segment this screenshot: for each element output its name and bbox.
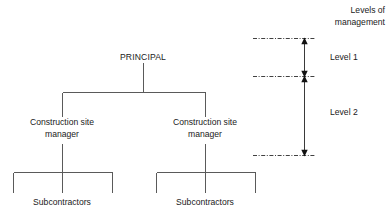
node-label-subcontractors-right: Subcontractors <box>176 197 234 207</box>
node-label-subcontractors-left: Subcontractors <box>33 197 91 207</box>
legend-label-level-1: Level 1 <box>330 52 358 62</box>
node-label-manager-left-line1: Construction site <box>30 117 94 127</box>
node-label-principal: PRINCIPAL <box>120 52 166 62</box>
level-1-measure-arrow <box>301 38 307 78</box>
node-label-manager-right-line1: Construction site <box>173 117 237 127</box>
level-2-measure-arrow <box>301 76 307 157</box>
legend-label-level-2: Level 2 <box>330 107 358 117</box>
legend-dividers <box>253 39 315 156</box>
organisational-chart-diagram: PRINCIPAL Construction site manager Cons… <box>0 0 391 221</box>
node-label-manager-left-line2: manager <box>45 129 79 139</box>
legend-title-line2: management <box>335 17 386 27</box>
node-label-manager-right-line2: manager <box>188 129 222 139</box>
legend-title-line1: Levels of <box>351 5 386 15</box>
diagram-canvas: PRINCIPAL Construction site manager Cons… <box>0 0 391 221</box>
org-chart-connectors <box>14 63 256 193</box>
